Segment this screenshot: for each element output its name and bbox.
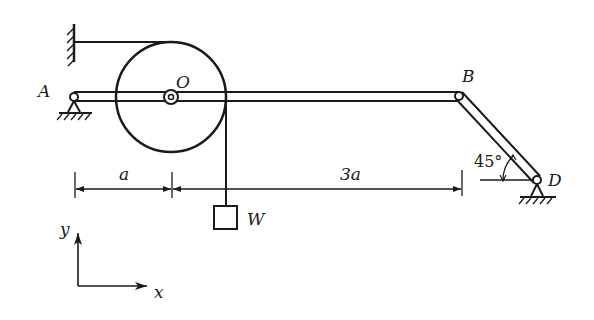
label-D: D — [547, 170, 562, 190]
mechanism-diagram: A O B D W a 3a 45° y x — [0, 0, 594, 320]
axis-label-x: x — [154, 282, 164, 302]
angle-label: 45° — [474, 152, 502, 171]
dimension-lines — [75, 170, 462, 198]
axis-label-y: y — [59, 219, 70, 239]
pin-support-A — [57, 93, 92, 120]
pin-O — [164, 90, 178, 104]
label-A: A — [36, 81, 50, 101]
label-B: B — [461, 66, 475, 86]
wall-support — [67, 24, 74, 66]
label-O: O — [176, 72, 190, 92]
dimension-label-a: a — [119, 164, 129, 184]
label-W: W — [247, 209, 266, 229]
pin-B — [455, 92, 463, 100]
beam-AB — [74, 92, 459, 101]
coordinate-axes — [78, 233, 147, 286]
weight-block — [214, 206, 237, 229]
dimension-label-3a: 3a — [340, 164, 361, 184]
